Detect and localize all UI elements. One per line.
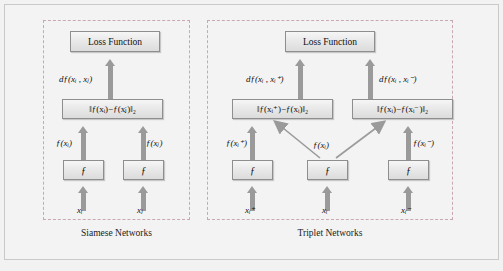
triplet-encoder-box-anchor: ƒ [307,160,348,180]
caption-siamese-networks: Siamese Networks [43,228,190,238]
siamese-norm-box: ‖ƒ(xᵢ)−ƒ(xⱼ)‖₂ [62,99,163,119]
siamese-loss-function-box: Loss Function [70,31,160,52]
triplet-loss-function-box: Loss Function [285,31,375,52]
triplet-norm-box-positive: ‖ƒ(xᵢ⁺)−ƒ(xᵢ)‖₂ [232,99,333,119]
triplet-distance-label-negative: dƒ(xᵢ , xᵢ⁻) [379,74,417,84]
siamese-distance-label: dƒ(xᵢ , xⱼ) [59,74,92,84]
triplet-norm-box-negative: ‖ƒ(xᵢ)−ƒ(xᵢ⁻)‖₂ [352,99,453,119]
siamese-encoder-box-left: ƒ [63,160,104,180]
triplet-encoder-box-negative: ƒ [388,160,429,180]
triplet-encoder-box-positive: ƒ [232,160,273,180]
siamese-input-label-right: xⱼ [137,205,143,215]
siamese-embedding-label-left: ƒ(xᵢ) [56,138,72,148]
triplet-embedding-label-anchor: ƒ(xᵢ) [313,140,329,150]
siamese-encoder-box-right: ƒ [123,160,164,180]
triplet-input-label-positive: xᵢ⁺ [245,205,255,215]
triplet-embedding-label-negative: ƒ(xᵢ⁻) [413,138,434,148]
triplet-input-label-anchor: xᵢ [322,205,327,215]
figure-canvas: Loss Function dƒ(xᵢ , xⱼ) ‖ƒ(xᵢ)−ƒ(xⱼ)‖₂… [0,0,503,271]
siamese-input-label-left: xᵢ [77,205,82,215]
caption-triplet-networks: Triplet Networks [207,228,453,238]
triplet-input-label-negative: xᵢ⁻ [401,205,411,215]
siamese-embedding-label-right: ƒ(xⱼ) [146,138,163,148]
triplet-distance-label-positive: dƒ(xᵢ , xᵢ⁺) [246,74,284,84]
triplet-embedding-label-positive: ƒ(xᵢ⁺) [226,138,247,148]
